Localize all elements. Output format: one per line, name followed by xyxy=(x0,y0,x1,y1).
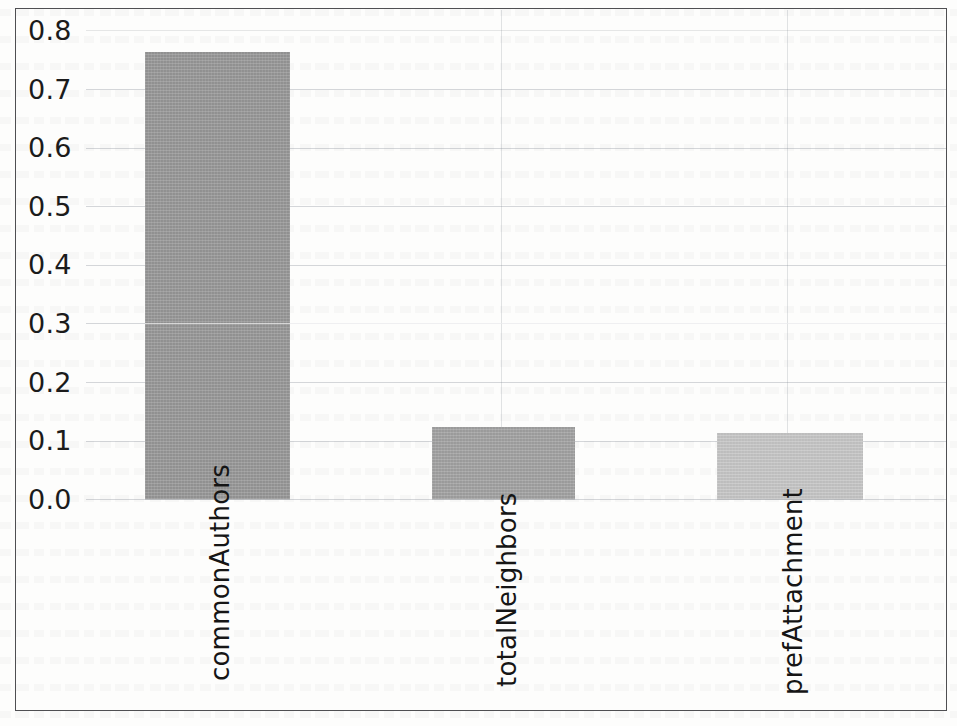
scanned-page: 0.8 0.7 0.6 0.5 0.4 0.3 0.2 0.1 0.0 xyxy=(0,0,957,726)
figure-border xyxy=(15,8,947,711)
